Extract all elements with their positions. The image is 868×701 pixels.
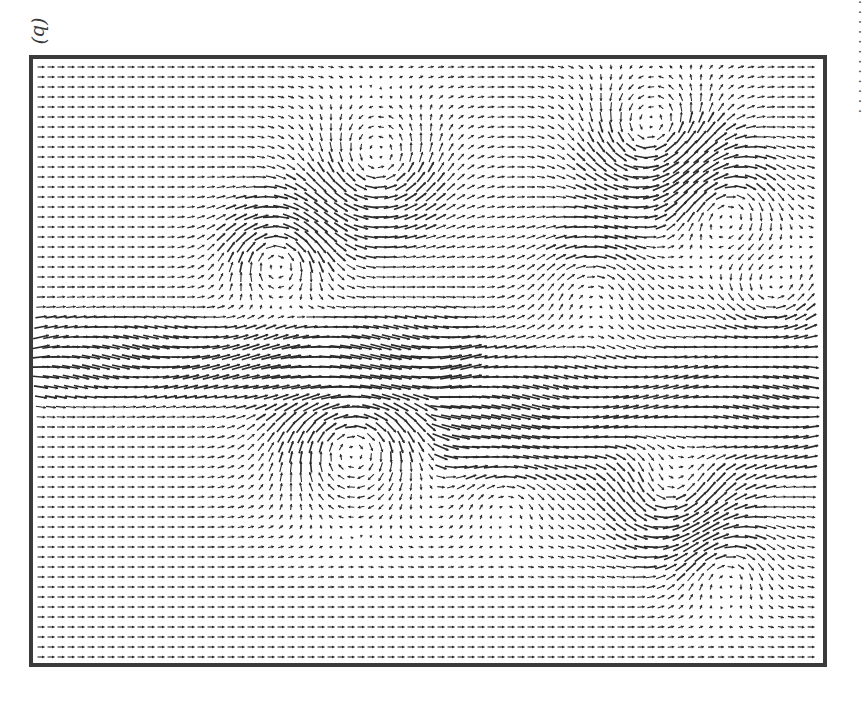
vector-field-plot	[29, 55, 827, 667]
velocity-vectors	[33, 59, 823, 663]
panel-label: (b)	[26, 16, 56, 46]
caption-clipped: · · · · · · · · · · · ·	[850, 0, 868, 701]
caption-text: · · · · · · · · · · · ·	[852, 0, 868, 114]
